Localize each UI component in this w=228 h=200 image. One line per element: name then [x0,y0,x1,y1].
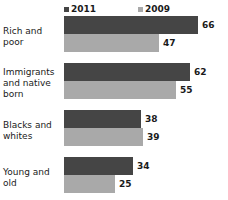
bar-pair: 38 39 [64,110,160,146]
bar-value-label: 38 [145,115,158,124]
bar-2009[interactable] [64,34,159,52]
bar-value-label: 25 [119,180,132,189]
category-label: Rich and poor [3,26,61,48]
bar-value-label: 55 [180,86,193,95]
bar-2011[interactable] [64,110,141,128]
square-marker-icon [138,7,143,12]
bar-pair: 62 55 [64,63,207,99]
bar-value-label: 62 [194,68,207,77]
legend-item-2011[interactable]: 2011 [64,5,96,14]
grouped-bar-chart: 2011 2009 Rich and poor 66 47 I [0,0,228,200]
bar-pair: 66 47 [64,16,215,52]
bar-group-immigrants-and-native-born: Immigrants and native born 62 55 [0,63,228,109]
square-marker-icon [64,7,69,12]
table-row: 39 [64,128,160,146]
bar-2009[interactable] [64,175,115,193]
bar-group-rich-and-poor: Rich and poor 66 47 [0,16,228,62]
table-row: 38 [64,110,160,128]
legend-label-2011: 2011 [71,5,96,14]
bar-2011[interactable] [64,157,133,175]
category-label: Blacks and whites [3,120,61,142]
bar-group-young-and-old: Young and old 34 25 [0,157,228,200]
chart-legend: 2011 2009 [64,2,214,16]
bar-value-label: 34 [137,162,150,171]
bar-value-label: 47 [163,39,176,48]
bar-value-label: 66 [202,21,215,30]
bar-2011[interactable] [64,16,198,34]
table-row: 47 [64,34,215,52]
legend-label-2009: 2009 [145,5,170,14]
plot-area: Rich and poor 66 47 Immigrants and nativ… [0,16,228,200]
table-row: 62 [64,63,207,81]
bar-2009[interactable] [64,81,176,99]
bar-value-label: 39 [147,133,160,142]
legend-item-2009[interactable]: 2009 [138,5,170,14]
table-row: 55 [64,81,207,99]
category-label: Young and old [3,167,61,189]
table-row: 25 [64,175,150,193]
bar-2011[interactable] [64,63,190,81]
bar-pair: 34 25 [64,157,150,193]
table-row: 66 [64,16,215,34]
table-row: 34 [64,157,150,175]
bar-2009[interactable] [64,128,143,146]
category-label: Immigrants and native born [3,67,61,100]
bar-group-blacks-and-whites: Blacks and whites 38 39 [0,110,228,156]
